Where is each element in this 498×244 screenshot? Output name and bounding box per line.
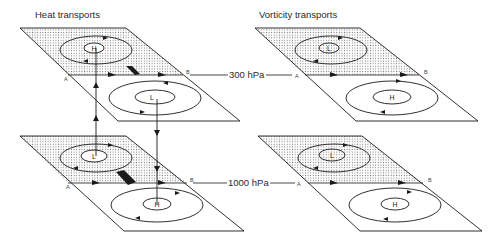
point-a-heat-300: A <box>64 76 68 82</box>
svg-text:H: H <box>389 94 394 101</box>
svg-text:L: L <box>330 152 334 159</box>
panel-heat-1000: L H <box>20 136 244 231</box>
point-b-heat-1000: B <box>190 177 194 183</box>
panel-vort-300: L H <box>255 28 478 121</box>
level-label-300: 300 hPa <box>228 70 265 80</box>
svg-text:H: H <box>392 201 397 208</box>
svg-text:L: L <box>92 153 96 160</box>
vorticity-transports-title: Vorticity transports <box>259 9 337 20</box>
svg-text:L: L <box>327 45 331 52</box>
heat-transports-title: Heat transports <box>35 9 100 20</box>
panel-vort-1000: L H <box>258 136 482 231</box>
point-b-vort-1000: B <box>428 177 432 183</box>
diagram-canvas: H L L H L <box>0 0 498 244</box>
point-b-heat-300: B <box>186 69 190 75</box>
point-a-heat-1000: A <box>66 184 70 190</box>
panel-heat-300: H L <box>20 28 240 121</box>
svg-text:L: L <box>150 94 154 101</box>
point-b-vort-300: B <box>424 69 428 75</box>
point-a-vort-300: A <box>295 73 299 79</box>
level-label-1000: 1000 hPa <box>227 178 270 188</box>
point-a-vort-1000: A <box>297 181 301 187</box>
